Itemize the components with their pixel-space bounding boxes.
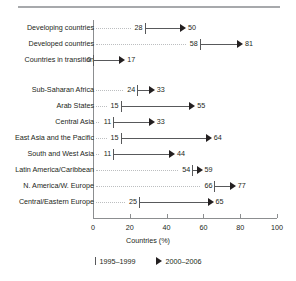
chart-figure: Developing countries2850Developed countr… [0,0,296,281]
leader-dots [96,90,123,92]
chart-row: Developed countries5881 [0,36,296,52]
arrow-marker-icon [156,257,162,265]
category-label: Central Asia [55,116,94,127]
end-value-label: 17 [125,54,135,65]
chart-row: South and West Asia1144 [0,146,296,162]
x-tick-label: 100 [271,223,283,233]
change-segment [93,60,119,61]
start-value-label: 15 [111,132,121,143]
category-label: Arab States [56,100,94,111]
start-value-label: 25 [129,196,139,207]
chart-row: Sub-Saharan Africa2433 [0,82,296,98]
leader-dots [96,170,178,172]
start-value-label: 58 [190,38,200,49]
start-value-label: 11 [104,148,113,159]
chart-row: Central Asia1133 [0,114,296,130]
start-value-label: 28 [135,22,145,33]
end-value-label: 64 [212,132,222,143]
x-tick-mark [240,214,241,218]
end-value-label: 50 [186,22,196,33]
category-label: Central/Eastern Europe [19,196,94,207]
chart-legend: 1995–1999 2000–2006 [0,256,296,266]
change-segment [139,202,208,203]
x-tick-mark [167,214,168,218]
chart-row: East Asia and the Pacific1564 [0,130,296,146]
chart-row: Latin America/Caribbean5459 [0,162,296,178]
chart-row: Central/Eastern Europe2565 [0,194,296,210]
end-value-label: 55 [195,100,205,111]
x-tick-label: 60 [199,223,207,233]
end-value-label: 59 [203,164,213,175]
legend-item-2000-2006: 2000–2006 [156,257,202,266]
change-segment [121,106,190,107]
x-tick-mark [277,214,278,218]
leader-dots [96,154,99,156]
tick-marker-icon [95,257,96,265]
leader-dots [96,44,186,46]
end-value-label: 77 [236,180,246,191]
start-value-label: 11 [104,116,113,127]
x-axis-title: Countries (%) [0,236,296,245]
category-label: Developing countries [27,22,94,33]
group-separator [0,68,296,82]
plot-area: Developing countries2850Developed countr… [0,20,296,218]
end-value-label: 65 [214,196,224,207]
start-value-label: 54 [182,164,192,175]
chart-row: Developing countries2850 [0,20,296,36]
change-segment [137,90,149,91]
change-segment [121,138,206,139]
legend-label-2000-2006: 2000–2006 [166,257,202,266]
x-tick-label: 80 [236,223,244,233]
start-value-label: 24 [127,84,137,95]
legend-label-1995-1999: 1995–1999 [100,257,136,266]
start-value-label: 15 [111,100,121,111]
top-divider-rule [18,6,280,8]
category-label: Latin America/Caribbean [15,164,94,175]
x-tick-mark [130,214,131,218]
leader-dots [96,138,107,140]
leader-dots [96,106,107,108]
chart-row: Arab States1555 [0,98,296,114]
change-segment [214,186,229,187]
leader-dots [96,186,200,188]
change-segment [113,122,148,123]
data-rows-container: Developing countries2850Developed countr… [0,20,296,210]
category-label: Sub-Saharan Africa [32,84,94,95]
chart-row: N. America/W. Europe6677 [0,178,296,194]
x-tick-mark [203,214,204,218]
category-label: East Asia and the Pacific [15,132,94,143]
legend-item-1995-1999: 1995–1999 [95,257,136,266]
end-value-label: 33 [155,116,165,127]
x-tick-label: 40 [163,223,171,233]
end-value-label: 44 [175,148,185,159]
start-value-label: 66 [204,180,214,191]
leader-dots [96,202,125,204]
end-value-label: 81 [243,38,253,49]
category-label: Developed countries [28,38,94,49]
x-axis-line [93,218,277,219]
leader-dots [96,28,131,30]
x-tick-label: 20 [126,223,134,233]
chart-row: Countries in transition017 [0,52,296,68]
change-segment [113,154,169,155]
leader-dots [96,122,99,124]
change-segment [200,44,237,45]
category-label: N. America/W. Europe [23,180,94,191]
x-tick-label: 0 [91,223,95,233]
change-segment [145,28,180,29]
category-label: South and West Asia [27,148,94,159]
category-label: Countries in transition [24,54,94,65]
end-value-label: 33 [155,84,165,95]
x-tick-mark [93,214,94,218]
